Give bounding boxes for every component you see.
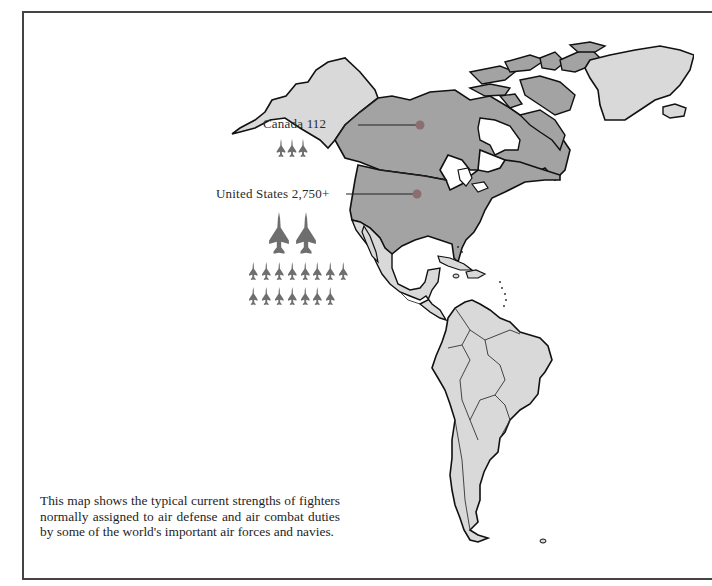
- us-marker: [413, 190, 422, 199]
- jet-icon: [287, 287, 298, 306]
- jet-icon: [248, 262, 259, 281]
- canada-marker: [416, 121, 425, 130]
- jet-icon: [338, 262, 349, 281]
- falkland-islands: [540, 539, 546, 543]
- united-states-label: United States 2,750+: [216, 186, 330, 202]
- jet-icon: [274, 287, 285, 306]
- canada-jet-row: [276, 139, 308, 158]
- large-jet-icon: [295, 212, 317, 256]
- jet-icon: [261, 262, 272, 281]
- map-caption: This map shows the typical current stren…: [40, 493, 340, 540]
- iceland-region: [663, 104, 686, 118]
- large-jet-icon: [268, 212, 290, 256]
- south-america-region: [432, 300, 552, 542]
- jet-icon: [298, 139, 308, 158]
- jet-icon: [312, 287, 323, 306]
- jet-icon: [300, 287, 311, 306]
- canada-label: Canada 112: [263, 116, 326, 132]
- jet-icon: [274, 262, 285, 281]
- jet-icon: [325, 262, 336, 281]
- jet-icon: [312, 262, 323, 281]
- us-small-jet-row-2: [248, 287, 336, 306]
- us-small-jet-row-1: [248, 262, 349, 281]
- jet-icon: [325, 287, 336, 306]
- us-large-jet-row: [268, 212, 317, 256]
- jet-icon: [300, 262, 311, 281]
- jet-icon: [287, 262, 298, 281]
- jet-icon: [248, 287, 259, 306]
- jet-icon: [276, 139, 286, 158]
- jet-icon: [261, 287, 272, 306]
- jet-icon: [287, 139, 297, 158]
